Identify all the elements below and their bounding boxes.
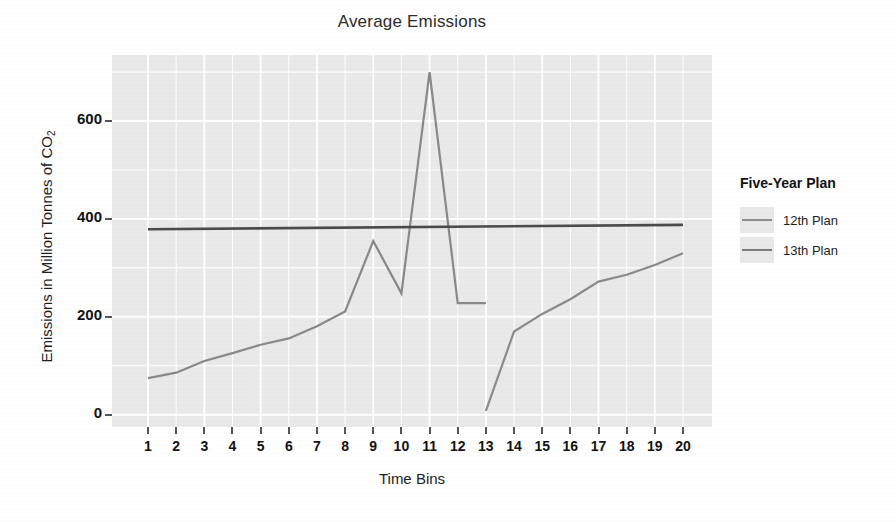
x-axis-tick-mark: [372, 427, 374, 434]
x-axis-tick-label: 3: [190, 438, 218, 454]
legend-items: 12th Plan13th Plan: [740, 205, 890, 265]
x-axis-tick-mark: [513, 427, 515, 434]
legend-line-glyph: [742, 219, 772, 221]
x-axis-tick-label: 7: [303, 438, 331, 454]
x-axis-tick-mark: [147, 427, 149, 434]
chart-title: Average Emissions: [112, 12, 712, 32]
x-axis-tick-mark: [400, 427, 402, 434]
x-axis-tick-mark: [457, 427, 459, 434]
plot-panel: 0200400600 12345678910111213141516171819…: [112, 55, 712, 427]
y-axis-tick-label: 200: [77, 306, 102, 323]
x-axis-tick-label: 2: [162, 438, 190, 454]
x-axis-tick-label: 19: [641, 438, 669, 454]
x-axis-tick-mark: [316, 427, 318, 434]
legend-line-swatch-icon: [740, 207, 774, 233]
y-axis-title-subscript: 2: [46, 130, 57, 136]
y-axis-tick-mark: [105, 218, 112, 220]
x-axis-title: Time Bins: [112, 470, 712, 487]
x-axis-tick-label: 4: [218, 438, 246, 454]
x-axis-tick-label: 1: [134, 438, 162, 454]
x-axis-tick-label: 11: [416, 438, 444, 454]
x-axis-tick-label: 14: [500, 438, 528, 454]
x-axis-tick-mark: [203, 427, 205, 434]
x-axis-tick-mark: [598, 427, 600, 434]
gridlines-vertical: [148, 55, 683, 427]
y-axis-tick-mark: [105, 120, 112, 122]
x-axis-tick-label: 15: [528, 438, 556, 454]
x-axis-tick-mark: [569, 427, 571, 434]
chart-container: Average Emissions Emissions in Million T…: [0, 0, 896, 522]
legend: Five-Year Plan 12th Plan13th Plan: [740, 175, 890, 265]
x-axis-tick-mark: [541, 427, 543, 434]
x-axis-tick-mark: [288, 427, 290, 434]
x-axis-tick-label: 16: [556, 438, 584, 454]
x-axis-tick-mark: [344, 427, 346, 434]
x-axis-tick-label: 18: [613, 438, 641, 454]
y-axis-tick-label: 400: [77, 208, 102, 225]
x-axis-tick-label: 10: [387, 438, 415, 454]
y-axis-tick-mark: [105, 414, 112, 416]
legend-item-label: 12th Plan: [783, 213, 838, 228]
x-axis-tick-label: 20: [669, 438, 697, 454]
legend-item[interactable]: 12th Plan: [740, 205, 890, 235]
x-axis-tick-mark: [654, 427, 656, 434]
plot-area: [112, 55, 712, 427]
y-axis-title-text: Emissions in Million Tonnes of CO: [38, 136, 55, 362]
legend-item[interactable]: 13th Plan: [740, 235, 890, 265]
x-axis-tick-label: 12: [444, 438, 472, 454]
y-axis-tick-mark: [105, 316, 112, 318]
legend-line-glyph: [742, 249, 772, 251]
x-axis-tick-label: 8: [331, 438, 359, 454]
y-axis-tick-label: 0: [94, 404, 102, 421]
series-lines: [148, 72, 683, 411]
legend-item-label: 13th Plan: [783, 243, 838, 258]
x-axis-tick-mark: [260, 427, 262, 434]
x-axis-tick-mark: [682, 427, 684, 434]
x-axis-tick-label: 5: [247, 438, 275, 454]
x-axis-tick-mark: [175, 427, 177, 434]
x-axis-tick-mark: [626, 427, 628, 434]
gridlines-horizontal: [112, 72, 712, 415]
y-axis-tick-label: 600: [77, 110, 102, 127]
legend-title: Five-Year Plan: [740, 175, 890, 191]
x-axis-tick-label: 9: [359, 438, 387, 454]
y-axis-title: Emissions in Million Tonnes of CO2: [38, 57, 55, 437]
legend-line-swatch-icon: [740, 237, 774, 263]
x-axis-tick-mark: [485, 427, 487, 434]
x-axis-tick-label: 13: [472, 438, 500, 454]
x-axis-tick-mark: [429, 427, 431, 434]
x-axis-tick-label: 17: [585, 438, 613, 454]
x-axis-tick-mark: [231, 427, 233, 434]
x-axis-tick-label: 6: [275, 438, 303, 454]
